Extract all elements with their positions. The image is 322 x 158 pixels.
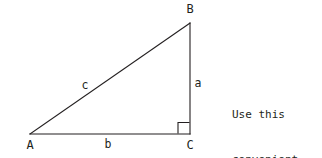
note-text-block: Use this convenient notation.: [232, 77, 298, 158]
side-label-a: a: [192, 77, 204, 89]
note-line-2: convenient: [232, 152, 298, 158]
side-label-c: c: [79, 79, 91, 91]
vertex-label-b: B: [184, 3, 196, 15]
vertex-label-a: A: [24, 139, 36, 151]
side-label-b: b: [102, 138, 114, 150]
side-c-line: [30, 23, 190, 134]
right-angle-marker-icon: [178, 123, 190, 134]
note-line-1: Use this: [232, 107, 298, 122]
vertex-label-c: C: [184, 139, 196, 151]
diagram-canvas: A B C a b c Use this convenient notation…: [0, 0, 322, 158]
